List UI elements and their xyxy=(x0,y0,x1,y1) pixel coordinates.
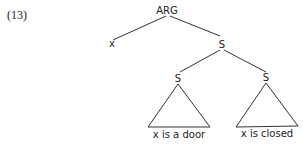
triangle-right xyxy=(236,83,298,127)
edge-arg-s xyxy=(170,16,220,36)
syntax-tree-figure: (13) ARG x S S S x is a door x is closed xyxy=(0,0,303,150)
edge-s-left xyxy=(180,50,220,72)
node-s-left: S xyxy=(175,73,181,84)
edge-arg-x xyxy=(113,16,166,40)
tree-diagram: ARG x S S S x is a door x is closed xyxy=(0,0,303,150)
node-s: S xyxy=(219,39,225,50)
node-s-right: S xyxy=(263,72,269,83)
node-arg: ARG xyxy=(156,5,178,16)
leaf-right-text: x is closed xyxy=(241,128,293,139)
leaf-left-text: x is a door xyxy=(153,129,206,140)
triangle-left xyxy=(148,84,210,127)
node-x: x xyxy=(109,38,115,49)
edge-s-right xyxy=(224,50,266,72)
